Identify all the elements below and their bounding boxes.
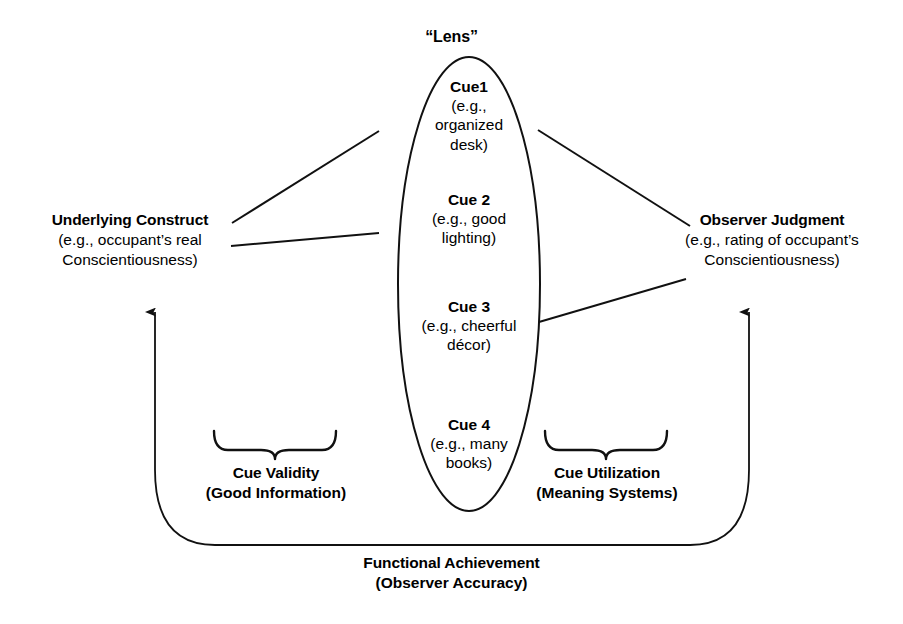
lens-caption: “Lens”: [0, 27, 903, 47]
judgment-title: Observer Judgment: [622, 210, 903, 230]
cue-1-example-line-2: organized: [389, 115, 549, 134]
node-observer-judgment: Observer Judgment (e.g., rating of occup…: [622, 210, 903, 269]
cue-2-example-line-1: (e.g., good: [389, 209, 549, 228]
cue-item-1: Cue1 (e.g., organized desk): [389, 77, 549, 154]
lens-caption-text: “Lens”: [425, 28, 478, 45]
functional-achievement-title: Functional Achievement: [0, 553, 903, 573]
cue-utilization-subtitle: (Meaning Systems): [517, 483, 697, 503]
cue-3-example-line-2: décor): [389, 335, 549, 354]
lens-model-diagram: “Lens” Cue1 (e.g., organized desk) Cue 2…: [0, 0, 903, 624]
label-functional-achievement: Functional Achievement (Observer Accurac…: [0, 553, 903, 593]
label-cue-validity: Cue Validity (Good Information): [186, 463, 366, 503]
functional-achievement-subtitle: (Observer Accuracy): [0, 573, 903, 593]
cue-validity-subtitle: (Good Information): [186, 483, 366, 503]
cue-item-3: Cue 3 (e.g., cheerful décor): [389, 297, 549, 355]
cue-validity-brace: [214, 431, 336, 459]
judgment-detail-line-2: Conscientiousness): [622, 250, 903, 270]
label-cue-utilization: Cue Utilization (Meaning Systems): [517, 463, 697, 503]
link-cue3-judgment: [539, 279, 686, 322]
judgment-detail-line-1: (e.g., rating of occupant’s: [622, 230, 903, 250]
cue-4-example-line-1: (e.g., many: [389, 434, 549, 453]
cue-4-name: Cue 4: [389, 415, 549, 434]
cue-1-example-line-1: (e.g.,: [389, 96, 549, 115]
cue-1-example-line-3: desk): [389, 135, 549, 154]
cue-1-name: Cue1: [389, 77, 549, 96]
construct-detail-line-2: Conscientiousness): [0, 250, 280, 270]
construct-detail-line-1: (e.g., occupant’s real: [0, 230, 280, 250]
cue-validity-title: Cue Validity: [186, 463, 366, 483]
cue-2-name: Cue 2: [389, 190, 549, 209]
construct-title: Underlying Construct: [0, 210, 280, 230]
cue-utilization-title: Cue Utilization: [517, 463, 697, 483]
cue-item-2: Cue 2 (e.g., good lighting): [389, 190, 549, 248]
cue-utilization-brace: [545, 431, 667, 459]
node-underlying-construct: Underlying Construct (e.g., occupant’s r…: [0, 210, 280, 269]
cue-3-name: Cue 3: [389, 297, 549, 316]
cue-2-example-line-2: lighting): [389, 228, 549, 247]
cue-3-example-line-1: (e.g., cheerful: [389, 316, 549, 335]
